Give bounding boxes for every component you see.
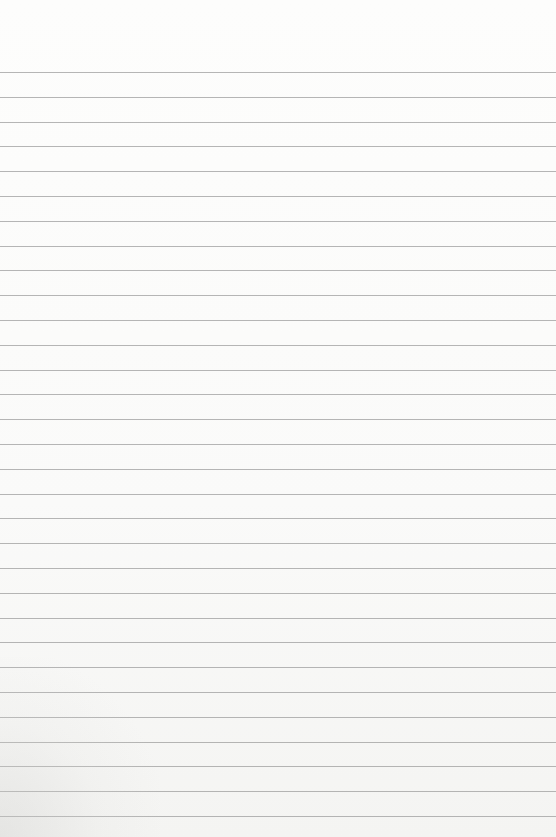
ruled-line xyxy=(0,568,556,569)
ruled-line xyxy=(0,122,556,123)
ruled-line xyxy=(0,791,556,792)
ruled-line xyxy=(0,667,556,668)
ruled-line xyxy=(0,146,556,147)
ruled-line xyxy=(0,692,556,693)
ruled-line xyxy=(0,593,556,594)
ruled-line xyxy=(0,394,556,395)
ruled-line xyxy=(0,444,556,445)
ruled-line xyxy=(0,642,556,643)
ruled-line xyxy=(0,816,556,817)
ruled-line xyxy=(0,543,556,544)
ruled-line xyxy=(0,270,556,271)
ruled-line xyxy=(0,295,556,296)
ruled-line xyxy=(0,370,556,371)
ruled-line xyxy=(0,345,556,346)
ruled-line xyxy=(0,97,556,98)
ruled-line xyxy=(0,320,556,321)
ruled-line xyxy=(0,717,556,718)
ruled-line xyxy=(0,246,556,247)
ruled-line xyxy=(0,419,556,420)
ruled-lines xyxy=(0,0,556,837)
ruled-line xyxy=(0,618,556,619)
ruled-line xyxy=(0,221,556,222)
ruled-line xyxy=(0,469,556,470)
ruled-line xyxy=(0,72,556,73)
ruled-line xyxy=(0,494,556,495)
ruled-line xyxy=(0,766,556,767)
lined-paper-sheet xyxy=(0,0,556,837)
ruled-line xyxy=(0,171,556,172)
ruled-line xyxy=(0,518,556,519)
ruled-line xyxy=(0,196,556,197)
ruled-line xyxy=(0,742,556,743)
